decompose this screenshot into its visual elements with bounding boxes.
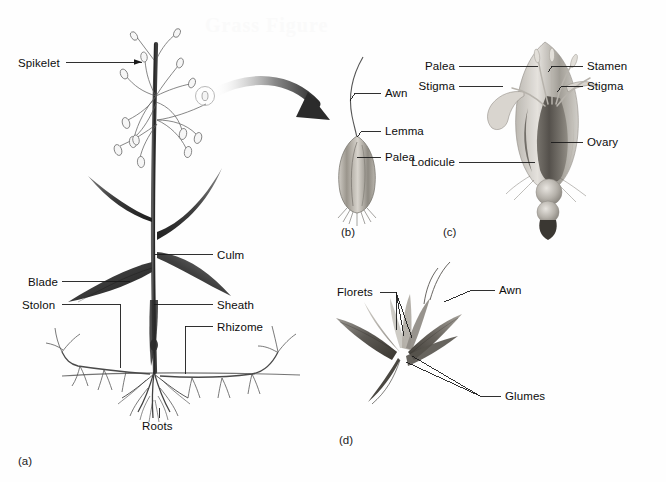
label-blade: Blade (28, 276, 58, 288)
label-lodicule: Lodicule (411, 156, 455, 168)
panel-letter-c: (c) (443, 226, 456, 238)
label-glumes: Glumes (505, 390, 545, 402)
label-roots: Roots (142, 420, 173, 432)
label-spikelet: Spikelet (18, 57, 60, 69)
panel-a-artwork (46, 28, 300, 422)
panel-c-artwork (459, 42, 598, 240)
label-sheath: Sheath (217, 299, 254, 311)
label-awn-d: Awn (499, 284, 521, 296)
panel-letter-a: (a) (18, 455, 32, 467)
panel-letter-b: (b) (341, 226, 355, 238)
label-stolon: Stolon (22, 299, 55, 311)
transition-arrow (214, 81, 330, 120)
label-stamen: Stamen (587, 60, 627, 72)
label-lemma: Lemma (385, 125, 424, 137)
panel-letter-d: (d) (339, 434, 353, 446)
panel-d-artwork (336, 262, 501, 404)
label-stigma-right: Stigma (587, 80, 623, 92)
label-rhizome: Rhizome (217, 321, 263, 333)
label-palea-c: Palea (425, 60, 455, 72)
figure-artwork (0, 0, 666, 482)
label-awn-b: Awn (385, 87, 407, 99)
label-ovary: Ovary (587, 136, 618, 148)
label-stigma-left: Stigma (419, 80, 455, 92)
label-culm: Culm (217, 249, 244, 261)
panel-b-artwork (338, 57, 381, 226)
label-florets: Florets (337, 286, 373, 298)
grass-morphology-figure: Grass Figure (0, 0, 666, 482)
